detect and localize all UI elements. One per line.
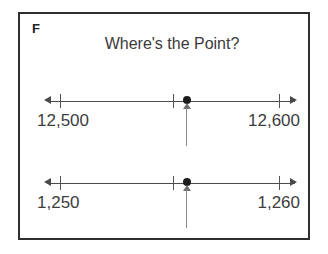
tick-mark-left [60,94,61,108]
number-line-2: 1,250 1,260 [20,168,312,254]
axis-rule [49,101,295,102]
page-title: Where's the Point? [20,36,312,52]
axis-label-right: 1,260 [257,194,300,211]
tick-mark-center [173,176,174,190]
arrow-right-icon [290,96,297,104]
axis-label-right: 12,600 [248,112,300,129]
pointer-stem [186,190,187,228]
problem-letter: F [32,22,40,35]
arrow-left-icon [44,96,51,104]
tick-mark-left [60,176,61,190]
arrow-left-icon [44,178,51,186]
axis-label-left: 12,500 [37,112,89,129]
tick-mark-right [279,94,280,108]
pointer-stem [186,108,187,146]
axis-rule [49,183,295,184]
tick-mark-center [173,94,174,108]
tick-mark-right [279,176,280,190]
arrow-right-icon [290,178,297,186]
worksheet-card: F Where's the Point? 12,500 12,600 1,250… [18,12,310,240]
axis-label-left: 1,250 [37,194,80,211]
